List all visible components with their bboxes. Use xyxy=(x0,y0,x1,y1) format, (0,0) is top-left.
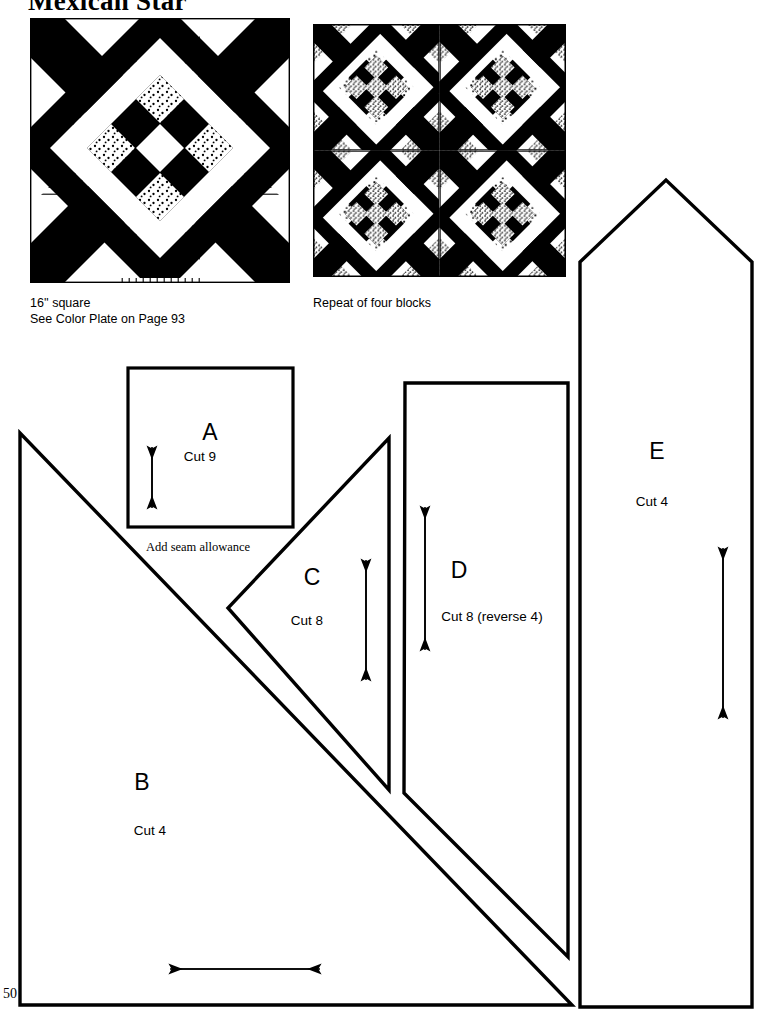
template-piece-e: E Cut 4 xyxy=(580,180,752,1007)
piece-letter-c: C xyxy=(304,564,321,590)
pattern-page: Mexican Star xyxy=(0,0,766,1023)
piece-letter-b: B xyxy=(134,769,149,795)
piece-cut-b: Cut 4 xyxy=(134,823,167,838)
piece-cut-a: Cut 9 xyxy=(184,449,216,464)
seam-allowance-note: Add seam allowance xyxy=(146,540,251,554)
piece-letter-d: D xyxy=(451,557,468,583)
page-number: 50 xyxy=(3,986,17,1002)
template-pieces: A Cut 9 Add seam allowance B Cut 4 C Cut… xyxy=(0,0,766,1023)
piece-letter-e: E xyxy=(649,438,664,464)
piece-letter-a: A xyxy=(202,419,218,445)
template-piece-a: A Cut 9 xyxy=(128,368,293,527)
piece-cut-e: Cut 4 xyxy=(636,494,669,509)
piece-cut-d: Cut 8 (reverse 4) xyxy=(441,609,542,624)
piece-cut-c: Cut 8 xyxy=(291,613,323,628)
